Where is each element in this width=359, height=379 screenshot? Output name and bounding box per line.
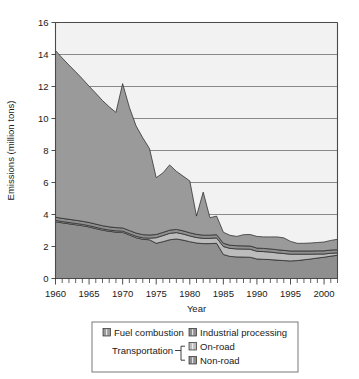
x-tick-label: 1975 [146, 288, 167, 299]
x-axis-minor-ticks [56, 279, 338, 285]
y-axis-ticks: 0246810121416 [38, 17, 56, 284]
y-tick-label: 0 [43, 273, 48, 284]
legend-label-non-road: Non-road [200, 355, 240, 366]
legend-swatch-non-road [189, 357, 197, 365]
legend-group-label-transportation: Transportation [112, 345, 173, 356]
legend-label-industrial-processing: Industrial processing [200, 327, 287, 338]
emissions-stacked-area-figure: 0246810121416196019651970197519801985199… [0, 0, 359, 379]
legend-label-fuel-combustion: Fuel combustion [114, 327, 184, 338]
y-tick-label: 6 [43, 177, 48, 188]
y-tick-label: 14 [38, 49, 49, 60]
legend: Fuel combustionIndustrial processingOn-r… [92, 322, 298, 372]
y-tick-label: 16 [38, 17, 49, 28]
x-tick-label: 1980 [179, 288, 200, 299]
y-tick-label: 12 [38, 81, 49, 92]
emissions-chart: 0246810121416196019651970197519801985199… [0, 0, 359, 379]
y-tick-label: 2 [43, 241, 48, 252]
x-tick-label: 1970 [112, 288, 133, 299]
legend-swatch-industrial-processing [189, 329, 197, 337]
legend-label-on-road: On-road [200, 341, 235, 352]
x-tick-label: 2000 [314, 288, 335, 299]
y-tick-label: 10 [38, 113, 49, 124]
y-axis-title: Emissions (million tons) [5, 101, 16, 201]
y-tick-label: 8 [43, 145, 48, 156]
x-axis-title: Year [187, 303, 206, 314]
x-tick-label: 1995 [280, 288, 301, 299]
x-tick-label: 1985 [213, 288, 234, 299]
legend-swatch-fuel-combustion [103, 329, 111, 337]
x-tick-label: 1965 [79, 288, 100, 299]
x-tick-label: 1960 [45, 288, 66, 299]
x-tick-label: 1990 [246, 288, 267, 299]
x-axis-tick-labels: 196019651970197519801985199019952000 [45, 288, 335, 299]
y-tick-label: 4 [43, 209, 48, 220]
legend-swatch-on-road [189, 343, 197, 351]
